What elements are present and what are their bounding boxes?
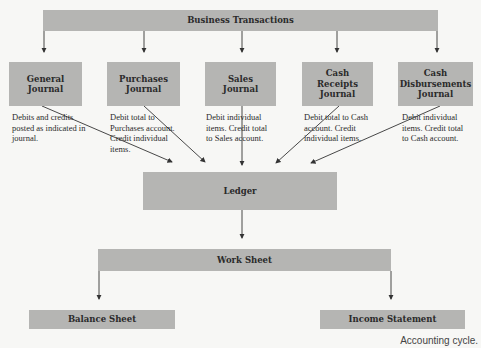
balance-sheet-box: Balance Sheet [29, 310, 175, 329]
cash-receipts-journal-box: Cash Receipts Journal [302, 62, 373, 106]
general-journal-note: Debits and credits posted as indicated i… [12, 112, 92, 144]
purchases-journal-box: Purchases Journal [107, 62, 180, 106]
general-journal-box: General Journal [9, 62, 82, 106]
income-statement-box: Income Statement [320, 310, 465, 329]
cash-disbursements-journal-note: Debit individual items. Credit total to … [402, 112, 466, 144]
ledger-box: Ledger [143, 172, 337, 210]
cash-receipts-journal-note: Debit total to Cash account. Credit indi… [304, 112, 376, 144]
purchases-journal-note: Debit total to Purchases account. Credit… [110, 112, 188, 154]
business-transactions-box: Business Transactions [43, 10, 438, 31]
sales-journal-note: Debit individual items. Credit total to … [206, 112, 272, 144]
cash-disbursements-journal-box: Cash Disbursements Journal [398, 62, 473, 106]
sales-journal-box: Sales Journal [205, 62, 276, 106]
figure-caption: Accounting cycle. [400, 335, 478, 346]
work-sheet-box: Work Sheet [98, 249, 391, 271]
